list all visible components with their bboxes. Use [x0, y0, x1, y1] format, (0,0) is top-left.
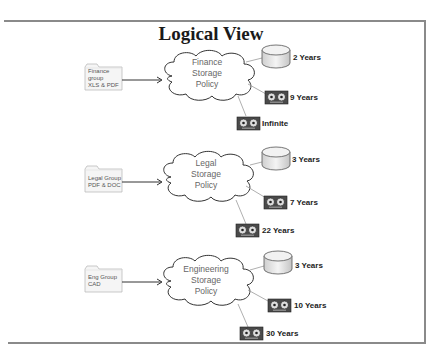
- folder-label: Legal Group PDF & DOC: [88, 175, 121, 189]
- disk-retention: 3 Years: [295, 261, 323, 270]
- folder-label: Eng Group CAD: [88, 274, 117, 288]
- tape-retention: 7 Years: [290, 198, 318, 207]
- tape-retention: 10 Years: [294, 301, 326, 310]
- tape-drive-icon: [240, 327, 263, 340]
- tape-retention: 30 Years: [266, 329, 298, 338]
- tape-drive-icon: [268, 299, 291, 312]
- policy-label: Finance Storage Policy: [167, 57, 247, 90]
- policy-label: Engineering Storage Policy: [166, 264, 246, 297]
- folder-label: Finance group XLS & PDF: [88, 68, 119, 89]
- policy-label: Legal Storage Policy: [166, 158, 246, 191]
- tape-retention: 22 Years: [262, 226, 294, 235]
- tape-drive-icon: [237, 117, 260, 130]
- tape-retention: Infinite: [262, 119, 288, 128]
- tape-drive-icon: [265, 91, 288, 104]
- disk-cylinder-icon: [262, 147, 290, 170]
- disk-cylinder-icon: [262, 45, 290, 68]
- tape-drive-icon: [236, 224, 259, 237]
- disk-retention: 3 Years: [292, 155, 320, 164]
- disk-retention: 2 Years: [293, 53, 321, 62]
- disk-cylinder-icon: [264, 251, 292, 274]
- tape-retention: 9 Years: [290, 93, 318, 102]
- tape-drive-icon: [264, 196, 287, 209]
